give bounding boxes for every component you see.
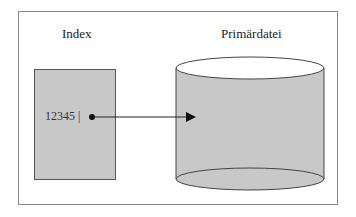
diagram-shapes <box>0 0 356 217</box>
primary-file-cylinder <box>176 57 324 190</box>
